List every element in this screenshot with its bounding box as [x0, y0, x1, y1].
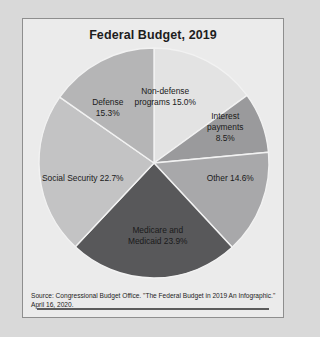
chart-title: Federal Budget, 2019 [23, 28, 283, 42]
bottom-rule [37, 308, 269, 310]
pie-svg [29, 47, 279, 279]
pie-slice-group [39, 48, 269, 278]
pie-chart: Non-defense programs 15.0%Interest payme… [29, 47, 279, 279]
figure-panel: Federal Budget, 2019 Non-defense program… [22, 18, 284, 318]
